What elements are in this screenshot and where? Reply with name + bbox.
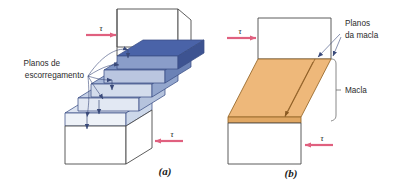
bracket-upper [331,59,336,86]
shear-arrow-bottom-b: τ [305,133,333,145]
bottom-block-face [65,126,126,164]
slip-planes-label-line1: Planos de [24,59,61,68]
twin-region [228,59,331,123]
shear-arrow-top-b: τ [227,26,256,38]
slab-front-face [65,113,126,126]
slip-planes-label-line2: escorregamento [25,71,85,80]
twin-top-face [228,59,331,117]
shear-arrow-top-a: τ [86,23,116,35]
twin-planes-label-line1: Planos [345,19,370,28]
panel-b-bottom-block [228,123,301,164]
panel-b-top-block [258,18,331,59]
caption-b: (b) [285,167,298,180]
caption-a: (a) [159,165,172,178]
slip-slab-group [65,40,204,126]
slab-front-face [78,98,139,111]
twin-planes-label-line2: da macla [345,31,379,40]
top-block-face [258,18,331,59]
bottom-block-face [228,123,301,164]
crystal-deformation-figure: Planos de escorregamento τ τ (a) [0,0,396,185]
tau-symbol-bottom-b: τ [320,133,324,143]
bracket-lower [331,86,336,121]
tau-symbol-bottom-a: τ [170,129,174,139]
shear-arrow-bottom-a: τ [155,129,183,141]
slab-front-face [117,56,178,69]
tau-symbol-top-a: τ [99,23,103,33]
macla-bracket [331,59,341,121]
slab-front-face [104,70,165,83]
panel-a-slip: Planos de escorregamento τ τ (a) [24,9,204,178]
tau-symbol-top-b: τ [238,26,242,36]
macla-region-label: Macla [345,86,367,95]
figure-canvas: Planos de escorregamento τ τ (a) [0,0,396,185]
twin-front-edge [228,117,301,123]
panel-b-twinning: Planos da macla Macla τ τ (b) [227,18,379,180]
